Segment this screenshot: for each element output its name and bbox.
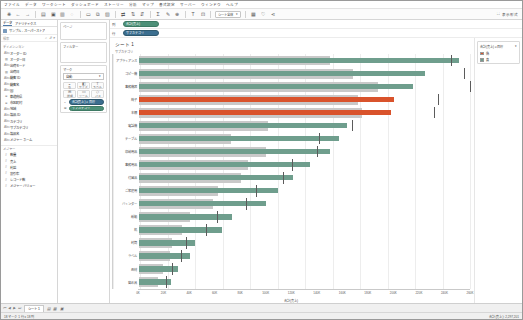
menu-item-story[interactable]: ストーリー [104,2,124,7]
measure-bar[interactable] [139,162,310,167]
highlighter-icon[interactable]: ♡ [260,11,267,18]
measure-bar[interactable] [139,97,394,102]
menu-item-file[interactable]: ファイル [4,2,20,7]
measure-bar[interactable] [139,84,413,89]
menu-item-analysis[interactable]: 分析 [129,2,137,7]
measure-bar[interactable] [139,71,425,76]
menu-item-format[interactable]: 書式設定 [159,2,175,7]
group-icon[interactable]: ⊕ [174,11,181,18]
menu-item-dashboard[interactable]: ダッシュボード [71,2,99,7]
measure-bar[interactable] [139,201,266,206]
pages-card-body[interactable] [61,29,106,39]
field-item[interactable]: Abcメジャー ネーム [1,137,57,143]
back-arrow-icon[interactable]: ← [15,11,22,18]
duplicate-sheet-icon[interactable]: ⧉ [94,11,101,18]
sort-descending-icon[interactable]: ⇵ [139,11,146,18]
new-dashboard-icon[interactable]: ▦ [53,306,57,311]
chart-row[interactable]: 電話機 [113,119,470,132]
tab-analytics[interactable]: アナリティクス [15,21,36,26]
datasource-row[interactable]: サンプル - スーパーストア [1,27,57,35]
chart-row[interactable]: 机 [113,223,470,236]
chart-row[interactable]: 紙類 [113,210,470,223]
chart-row[interactable]: ご家庭用 [113,184,470,197]
chart-row[interactable]: アプライアンス [113,54,470,67]
marks-pill-detail[interactable]: サブカテゴリ [69,106,105,112]
new-story-icon[interactable]: ▣ [60,306,64,311]
measure-item[interactable]: #メジャー バリュー [1,183,57,189]
clear-sheet-icon[interactable]: ▨ [104,11,111,18]
menu-item-data[interactable]: データ [25,2,37,7]
show-me-icon[interactable]: ▦ [250,11,257,18]
columns-shelf[interactable]: 列 合計(売上) [110,20,522,29]
chart-row[interactable]: 留め具 [113,276,470,289]
measure-bar[interactable] [139,136,339,141]
measure-bar[interactable] [139,253,190,258]
rows-shelf[interactable]: 行 サブカテゴリ [110,29,522,38]
fit-dropdown[interactable]: シート全体 ▾ [215,11,241,18]
chart-row[interactable]: 付属品 [113,171,470,184]
columns-shelf-area[interactable]: 合計(売上) [121,21,522,27]
detail-button[interactable]: ⊞詳細 [63,90,76,98]
color-button[interactable]: ◒色 [63,82,76,90]
save-icon[interactable]: ▤ [40,11,47,18]
legend-item[interactable]: 真 [478,57,519,64]
menu-item-window[interactable]: ウィンドウ [201,2,221,7]
size-button[interactable]: ◧サイズ [77,82,90,90]
mark-type-dropdown[interactable]: 自動 ▾ [63,73,104,80]
show-labels-icon[interactable]: T [190,11,197,18]
search-icon[interactable]: ⌕ [45,36,47,40]
last-sheet-icon[interactable]: ⏭ [18,306,21,310]
menu-item-server[interactable]: サーバー [180,2,196,7]
menu-item-worksheet[interactable]: ワークシート [42,2,66,7]
rows-pill-subcategory[interactable]: サブカテゴリ [123,30,159,36]
chart-row[interactable]: 事務用品 [113,158,470,171]
chart-row[interactable]: 収納用品 [113,145,470,158]
new-worksheet-icon[interactable]: ▭ [85,11,92,18]
prev-sheet-icon[interactable]: ◀ [8,306,11,310]
menu-item-map[interactable]: マップ [142,2,154,7]
first-sheet-icon[interactable]: ⏮ [3,306,6,310]
add-datasource-icon[interactable]: ▣ [50,11,57,18]
sort-ascending-icon[interactable]: ⇅ [129,11,136,18]
chart-row[interactable]: 本棚 [113,106,470,119]
chart-row[interactable]: 椅子 [113,93,470,106]
refresh-datasource-icon[interactable]: ▥ [59,11,66,18]
tab-data[interactable]: データ [3,20,12,27]
measure-bar[interactable] [139,149,330,154]
share-icon[interactable]: ⋖ [269,11,276,18]
chart-row[interactable]: コピー機 [113,67,470,80]
marks-pill-color[interactable]: 合計(売上) ≥ 目標 [69,99,105,105]
measure-bar[interactable] [139,123,347,128]
menu-item-help[interactable]: ヘルプ [226,2,238,7]
tableau-logo-icon[interactable]: ❋ [5,11,12,18]
more-options-icon[interactable]: ▾ [53,36,55,40]
search-input[interactable]: 検索 [3,36,9,41]
filters-card-body[interactable] [61,49,106,62]
totals-icon[interactable]: Σ [155,11,162,18]
rows-shelf-area[interactable]: サブカテゴリ [121,30,522,36]
measure-bar[interactable] [139,58,459,63]
pause-icon[interactable]: ◌ [69,11,76,18]
measure-bar[interactable] [139,227,222,232]
chart-row[interactable]: ラベル [113,249,470,262]
chart-row[interactable]: 事務機器 [113,80,470,93]
tooltip-button[interactable]: ▭ツール [77,90,90,98]
highlight-icon[interactable]: ✎ [164,11,171,18]
fix-axes-icon[interactable]: ⊡ [199,11,206,18]
bars-container[interactable]: アプライアンスコピー機事務機器椅子本棚電話機テーブル収納用品事務用品付属品ご家庭… [112,54,470,289]
chart-row[interactable]: 画材 [113,263,470,276]
chart-row[interactable]: 封筒 [113,236,470,249]
chart-row[interactable]: バインダー [113,197,470,210]
label-button[interactable]: Tラベル [91,82,104,90]
measure-bar[interactable] [139,175,293,180]
chart-row[interactable]: テーブル [113,132,470,145]
measure-bar[interactable] [139,188,278,193]
legend-item[interactable]: 偽 [478,50,519,57]
sheet-tab-1[interactable]: シート 1 [24,305,44,312]
presentation-mode-button[interactable]: ⛶ 表示形式 [497,12,518,17]
next-sheet-icon[interactable]: ▶ [13,306,16,310]
measure-bar[interactable] [139,214,232,219]
sort-field-icon[interactable]: ⇵ [49,36,52,40]
legend-menu-icon[interactable]: ▾ [515,44,517,48]
swap-axes-icon[interactable]: ⇄ [120,11,127,18]
